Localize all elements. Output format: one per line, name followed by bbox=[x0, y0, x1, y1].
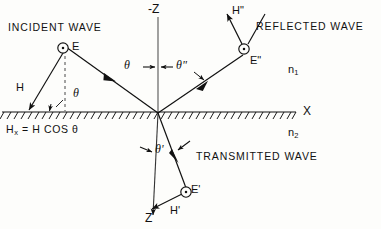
theta-double-prime-pointer bbox=[194, 72, 204, 80]
hx-rhs: = H COS θ bbox=[22, 123, 78, 135]
hx-lhs-subscript: x bbox=[14, 128, 18, 137]
n1-subscript: 1 bbox=[294, 68, 298, 77]
medium-n1-label: n1 bbox=[288, 64, 298, 77]
transmitted-e-circle bbox=[181, 187, 191, 197]
transmitted-e-label: E' bbox=[191, 184, 200, 195]
hx-lhs-symbol: H bbox=[6, 123, 14, 135]
medium-n2-label: n2 bbox=[288, 127, 298, 140]
reflected-h-label: H" bbox=[232, 5, 244, 16]
figure-canvas: INCIDENT WAVE REFLECTED WAVE TRANSMITTED… bbox=[0, 0, 381, 229]
transmitted-wave-label: TRANSMITTED WAVE bbox=[196, 151, 318, 162]
theta-incident-label: θ bbox=[73, 87, 79, 99]
axis-minus-z-label: -Z bbox=[148, 3, 159, 15]
theta-double-prime-label: θ" bbox=[176, 59, 187, 71]
theta-prime-label: θ' bbox=[155, 143, 163, 155]
interface-boundary bbox=[0, 112, 296, 119]
theta-prime-pointers bbox=[140, 141, 190, 152]
incident-h-vector bbox=[29, 53, 63, 110]
reflected-ray bbox=[158, 14, 265, 113]
n2-subscript: 2 bbox=[294, 131, 298, 140]
axis-z-label: Z bbox=[145, 212, 152, 224]
incident-angle-mark bbox=[56, 100, 63, 107]
reflected-e-circle bbox=[239, 44, 249, 54]
transmitted-h-label: H' bbox=[170, 205, 180, 216]
incident-h-label: H bbox=[16, 82, 24, 93]
hx-component-ticks bbox=[50, 104, 52, 111]
incident-wave-label: INCIDENT WAVE bbox=[8, 22, 102, 33]
theta-reflection-label: θ bbox=[124, 59, 130, 71]
incident-e-circle bbox=[58, 43, 68, 53]
axis-x-label: X bbox=[303, 105, 311, 117]
incident-e-label: E bbox=[72, 41, 79, 52]
reflected-e-label: E" bbox=[250, 55, 261, 66]
reflected-wave-label: REFLECTED WAVE bbox=[256, 21, 364, 32]
incident-ray bbox=[66, 47, 158, 113]
hx-equation: Hx = H COS θ bbox=[6, 124, 79, 137]
reflected-h-vector bbox=[227, 14, 242, 44]
